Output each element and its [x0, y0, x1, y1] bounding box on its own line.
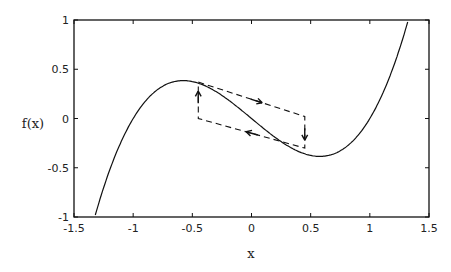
- y-tick-label: 0.5: [52, 63, 70, 76]
- x-tick-label: -1: [128, 222, 139, 235]
- x-tick-label: 1.5: [420, 222, 438, 235]
- chart: -1.5-1-0.500.511.510.50-0.5-1 x f(x): [0, 0, 451, 272]
- x-tick-label: 0.5: [302, 222, 320, 235]
- axis-tick-labels: -1.5-1-0.500.511.510.50-0.5-1: [48, 14, 438, 235]
- y-tick-label: -1: [58, 211, 69, 224]
- x-tick-label: -0.5: [182, 222, 203, 235]
- direction-arrows: [195, 91, 307, 140]
- y-axis-label: f(x): [22, 116, 44, 131]
- x-tick-label: 1: [366, 222, 373, 235]
- dashed-loop: [198, 82, 304, 148]
- x-tick-label: 0: [248, 222, 255, 235]
- x-axis-label: x: [247, 246, 255, 261]
- cubic-curve: [95, 22, 407, 215]
- y-tick-label: 0: [62, 113, 69, 126]
- y-tick-label: 1: [62, 14, 69, 27]
- y-tick-label: -0.5: [48, 162, 69, 175]
